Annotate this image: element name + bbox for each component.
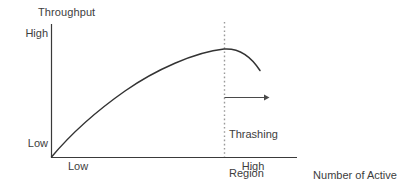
thrashing-region-label-line-1: Thrashing [229, 128, 278, 141]
y-axis-title: Throughput [38, 6, 95, 18]
thrashing-region-arrow [225, 94, 270, 100]
x-axis-title: Number of Active Transactions [301, 143, 409, 185]
y-axis-tick-label-low: Low [0, 137, 48, 149]
thrashing-region-label-line-2: Region [229, 167, 278, 180]
x-axis-tick-label-low: Low [58, 160, 98, 172]
x-axis-title-line-1: Number of Active [301, 169, 409, 182]
y-axis-tick-label-high: High [0, 27, 48, 39]
thrashing-region-label: Thrashing Region [229, 102, 278, 185]
throughput-chart-figure: Throughput High Low Low High Number of A… [0, 0, 411, 185]
